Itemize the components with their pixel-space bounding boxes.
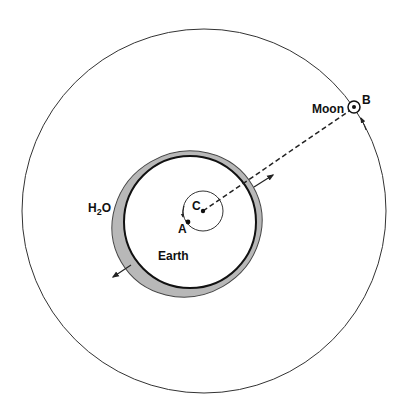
point-c-label: C [192,199,201,213]
moon-label: Moon [312,102,344,116]
point-c-dot [201,209,205,213]
moon-symbol-dot [352,105,356,109]
point-a-label: A [178,222,187,236]
water-label: H2O [88,201,111,217]
point-b-label: B [362,93,371,107]
bulge-arrow-moonward [254,175,273,187]
earth-label: Earth [158,249,189,263]
moon-orbit-direction-arrow [361,118,366,130]
earth-moon-tide-diagram: Moon B C A Earth H2O [0,0,402,414]
